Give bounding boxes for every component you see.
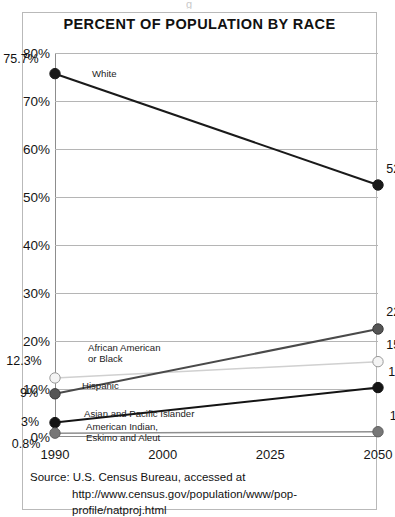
y-tick-label: 20% bbox=[2, 334, 50, 349]
chart-figure: g PERCENT OF POPULATION BY RACE 0%10%20%… bbox=[0, 0, 395, 517]
y-tick-label: 60% bbox=[2, 142, 50, 157]
series-marker bbox=[50, 389, 60, 399]
y-axis-ticks: 0%10%20%30%40%50%60%70%80% bbox=[0, 53, 50, 437]
y-tick-label: 30% bbox=[2, 286, 50, 301]
data-value-label: 15.7% bbox=[386, 338, 395, 352]
series-line bbox=[55, 74, 378, 185]
data-value-label: 0.8% bbox=[12, 437, 41, 451]
series-marker bbox=[373, 324, 383, 334]
series-marker bbox=[373, 356, 383, 366]
series-marker bbox=[373, 427, 383, 437]
data-value-label: 9% bbox=[20, 386, 38, 400]
series-marker bbox=[373, 382, 383, 392]
data-value-label: 75.7% bbox=[3, 52, 38, 66]
data-value-label: 12.3% bbox=[6, 354, 41, 368]
series-marker bbox=[373, 180, 383, 190]
data-value-label: 1.1% bbox=[390, 409, 395, 423]
data-value-label: 3% bbox=[21, 415, 39, 429]
source-note: Source: U.S. Census Bureau, accessed at … bbox=[30, 469, 375, 517]
x-axis-ticks: 1990200020252050 bbox=[55, 447, 378, 467]
data-value-label: 52.5% bbox=[386, 162, 395, 176]
y-tick-label: 40% bbox=[2, 238, 50, 253]
data-value-label: 22.5% bbox=[386, 305, 395, 319]
y-tick-label: 70% bbox=[2, 94, 50, 109]
series-name-label: White bbox=[92, 69, 117, 80]
data-value-label: 10.3% bbox=[388, 365, 395, 379]
series-marker bbox=[50, 373, 60, 383]
series-name-label: Asian and Pacific Islander bbox=[84, 409, 194, 420]
x-tick-label: 2050 bbox=[364, 447, 393, 462]
series-name-label: Hispanic bbox=[82, 381, 119, 392]
series-marker bbox=[50, 417, 60, 427]
source-line-2: http://www.census.gov/population/www/pop… bbox=[30, 486, 375, 517]
page-artifact: g bbox=[186, 0, 195, 9]
x-tick-label: 2025 bbox=[256, 447, 285, 462]
series-marker bbox=[50, 428, 60, 438]
x-tick-label: 1990 bbox=[41, 447, 70, 462]
series-name-label: American Indian, Eskimo and Aleut bbox=[86, 422, 160, 443]
y-tick-label: 50% bbox=[2, 190, 50, 205]
source-line-1: Source: U.S. Census Bureau, accessed at bbox=[30, 471, 245, 483]
x-tick-label: 2000 bbox=[148, 447, 177, 462]
series-name-label: African American or Black bbox=[88, 343, 161, 364]
series-marker bbox=[50, 68, 60, 78]
chart-title: PERCENT OF POPULATION BY RACE bbox=[22, 16, 377, 32]
